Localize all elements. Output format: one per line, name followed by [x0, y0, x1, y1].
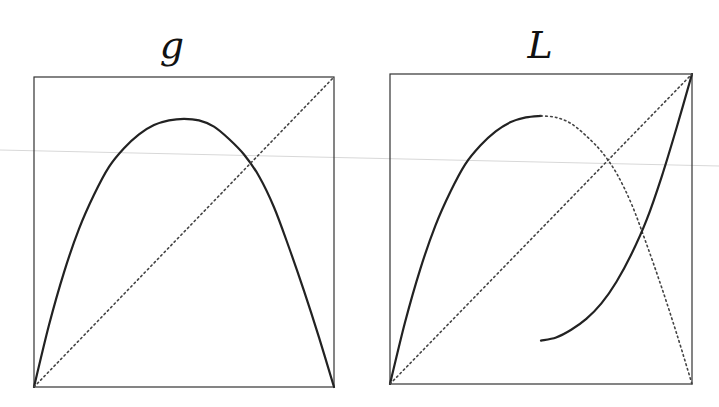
title-L: L [526, 23, 552, 67]
series-L-right-branch [541, 74, 692, 341]
series-g-continuation [541, 116, 692, 384]
series-identity [34, 77, 334, 387]
panel-L [390, 74, 692, 384]
panel-g [34, 77, 334, 387]
figure: g L [0, 0, 719, 407]
series-g [34, 119, 334, 387]
title-g: g [160, 23, 184, 67]
series-L-left-branch [390, 116, 541, 384]
series-identity [390, 74, 692, 384]
